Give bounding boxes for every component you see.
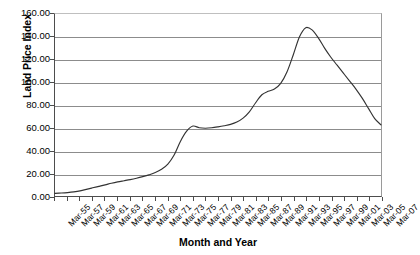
y-axis-tick-labels: 0.0020.0040.0060.0080.00100.00120.00140.…	[0, 13, 50, 197]
y-tick-label: 20.00	[4, 168, 50, 179]
y-tick-label: 80.00	[4, 99, 50, 110]
x-axis-title: Month and Year	[54, 236, 382, 248]
series-line-land-price-index	[55, 14, 381, 196]
y-tick-label: 120.00	[4, 53, 50, 64]
y-tick-label: 140.00	[4, 30, 50, 41]
x-axis-tick-labels: Mar-55Mar-57Mar-59Mar-61Mar-63Mar-65Mar-…	[0, 200, 394, 240]
y-tick-label: 160.00	[4, 7, 50, 18]
y-tick-label: 100.00	[4, 76, 50, 87]
plot-area	[54, 13, 382, 197]
y-tick-label: 60.00	[4, 122, 50, 133]
y-tick-label: 40.00	[4, 145, 50, 156]
